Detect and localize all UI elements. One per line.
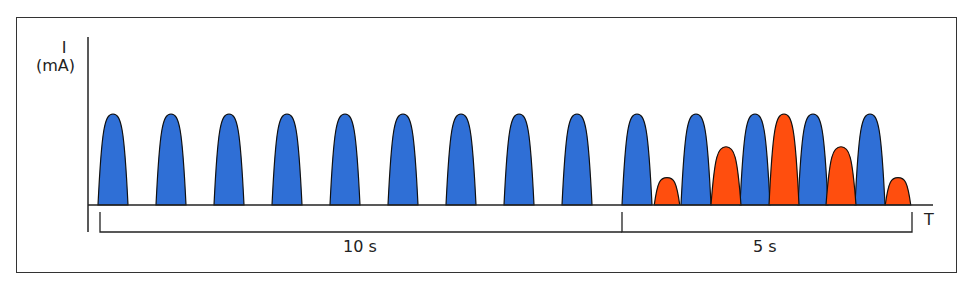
blue-pulse xyxy=(330,114,360,205)
blue-pulse xyxy=(156,114,186,205)
blue-pulse xyxy=(798,114,828,205)
orange-pulse xyxy=(826,147,856,205)
blue-pulse xyxy=(855,114,885,205)
blue-pulse xyxy=(504,114,534,205)
blue-pulse xyxy=(562,114,592,205)
pulse-group xyxy=(98,114,911,205)
blue-pulse xyxy=(740,114,770,205)
orange-pulse xyxy=(769,114,799,205)
interval-bracket xyxy=(622,212,912,232)
orange-pulse xyxy=(654,178,680,205)
blue-pulse xyxy=(272,114,302,205)
orange-pulse xyxy=(885,178,911,205)
blue-pulse xyxy=(388,114,418,205)
blue-pulse xyxy=(681,114,711,205)
interval-brackets xyxy=(100,212,912,232)
blue-pulse xyxy=(214,114,244,205)
blue-pulse xyxy=(622,114,652,205)
blue-pulse xyxy=(98,114,128,205)
orange-pulse xyxy=(711,147,741,205)
blue-pulse xyxy=(446,114,476,205)
pulse-plot xyxy=(0,0,973,287)
interval-bracket xyxy=(100,212,622,232)
